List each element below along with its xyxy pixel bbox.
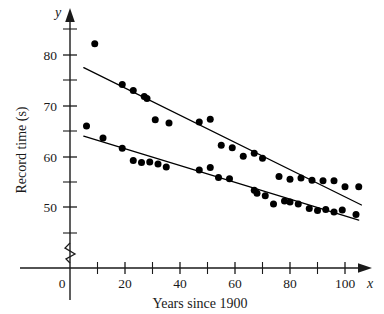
data-point [130, 87, 137, 94]
data-point [339, 207, 346, 214]
data-point [146, 158, 153, 165]
plot-canvas: 80 70 60 50 0 20 40 60 80 100 y x Years … [0, 0, 384, 314]
data-point [119, 81, 126, 88]
y-tick-label-70: 70 [44, 99, 58, 114]
data-point [270, 200, 277, 207]
data-point [320, 177, 327, 184]
data-point [130, 157, 137, 164]
data-point [314, 207, 321, 214]
data-point [196, 118, 203, 125]
x-axis-name: x [366, 276, 374, 291]
data-point [322, 206, 329, 213]
x-tick-label-100: 100 [335, 276, 356, 291]
scatter-plot-figure: 80 70 60 50 0 20 40 60 80 100 y x Years … [0, 0, 384, 314]
data-point [287, 198, 294, 205]
x-tick-label-60: 60 [228, 276, 242, 291]
data-point [251, 150, 258, 157]
y-axis-name: y [53, 5, 62, 20]
data-point [155, 160, 162, 167]
data-point [353, 211, 360, 218]
data-point [166, 119, 173, 126]
data-point [152, 116, 159, 123]
data-point [163, 163, 170, 170]
x-tick-label-40: 40 [173, 276, 187, 291]
data-point [254, 190, 261, 197]
y-tick-label-60: 60 [44, 150, 58, 165]
data-point [240, 153, 247, 160]
data-point [355, 183, 362, 190]
data-point [144, 95, 151, 102]
data-point [100, 135, 107, 142]
data-point [298, 175, 305, 182]
data-point [287, 176, 294, 183]
data-point [331, 209, 338, 216]
data-point [226, 175, 233, 182]
data-point [331, 177, 338, 184]
y-axis-arrowhead [65, 8, 75, 22]
lower-series-points [83, 122, 360, 218]
data-point [306, 205, 313, 212]
x-tick-label-20: 20 [118, 276, 132, 291]
x-tick-label-80: 80 [283, 276, 297, 291]
data-point [207, 164, 214, 171]
y-tick-label-50: 50 [44, 200, 58, 215]
data-point [229, 144, 236, 151]
data-point [276, 173, 283, 180]
data-point [91, 40, 98, 47]
data-point [119, 145, 126, 152]
data-point [259, 155, 266, 162]
upper-series-points [91, 40, 362, 190]
upper-fit-line [84, 68, 362, 205]
data-point [342, 183, 349, 190]
data-point [83, 122, 90, 129]
data-point [262, 192, 269, 199]
data-point [218, 142, 225, 149]
x-axis [20, 263, 372, 273]
data-point [309, 177, 316, 184]
data-point [138, 159, 145, 166]
y-axis-title: Record time (s) [14, 106, 30, 193]
x-axis-arrowhead [358, 263, 372, 273]
data-point [207, 116, 214, 123]
x-axis-title: Years since 1900 [152, 296, 247, 311]
data-point [196, 167, 203, 174]
data-point [215, 174, 222, 181]
data-point [295, 200, 302, 207]
x-tick-label-0: 0 [59, 276, 66, 291]
y-tick-label-80: 80 [44, 48, 58, 63]
